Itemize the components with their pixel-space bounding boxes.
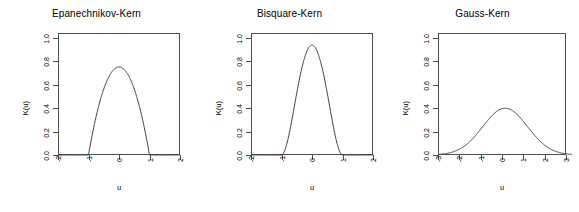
- y-tick-label-wrap: 0.6: [242, 85, 243, 86]
- panel-epanechnikov: Epanechnikov-Kern K(u) u 0.00.20.40.60.8…: [0, 0, 193, 212]
- y-tick-label: 1.0: [236, 34, 243, 44]
- x-tick-label: 2: [370, 158, 377, 162]
- y-axis-title-wrap: K(u): [406, 94, 418, 95]
- y-tick-mark: [246, 85, 251, 86]
- x-tick-label-wrap: -1: [89, 162, 90, 163]
- y-tick-mark: [53, 38, 58, 39]
- x-tick-label-wrap: 2: [545, 162, 546, 163]
- y-axis-title-wrap: K(u): [26, 94, 38, 95]
- y-tick-label-wrap: 0.2: [49, 132, 50, 133]
- y-tick-label: 0.4: [43, 104, 50, 114]
- y-tick-label-wrap: 0.0: [49, 155, 50, 156]
- curve-bisquare: [251, 33, 373, 155]
- y-tick-label-wrap: 0.4: [242, 108, 243, 109]
- y-tick-label: 0.0: [43, 151, 50, 161]
- y-tick-mark: [246, 108, 251, 109]
- y-tick-label: 0.8: [236, 57, 243, 67]
- y-axis-title-wrap: K(u): [219, 94, 231, 95]
- y-tick-label: 0.2: [43, 128, 50, 138]
- x-tick-label: 2: [541, 158, 548, 162]
- x-tick-label: 2: [177, 158, 184, 162]
- x-tick-label-wrap: -2: [459, 162, 460, 163]
- x-tick-label-wrap: 0: [119, 162, 120, 163]
- x-tick-label-wrap: 0: [312, 162, 313, 163]
- y-tick-label-wrap: 0.8: [429, 61, 430, 62]
- x-tick-label: -2: [248, 156, 255, 162]
- x-tick-label-wrap: 1: [523, 162, 524, 163]
- x-tick-label-wrap: 2: [373, 162, 374, 163]
- y-tick-label: 1.0: [43, 34, 50, 44]
- panel-title-bisquare: Bisquare-Kern: [193, 8, 386, 19]
- x-tick-label-wrap: -1: [282, 162, 283, 163]
- x-tick-label: -1: [278, 156, 285, 162]
- y-tick-mark: [246, 61, 251, 62]
- x-tick-label-wrap: -1: [481, 162, 482, 163]
- y-tick-label-wrap: 0.4: [49, 108, 50, 109]
- x-tick-label: -2: [456, 156, 463, 162]
- x-tick-label: 0: [116, 158, 123, 162]
- x-tick-label-wrap: 0: [502, 162, 503, 163]
- plot-area-epanechnikov: K(u) u 0.00.20.40.60.81.0 -2-1012: [58, 33, 180, 155]
- y-tick-label: 0.4: [236, 104, 243, 114]
- x-tick-label: -3: [435, 156, 442, 162]
- y-tick-label: 0.0: [236, 151, 243, 161]
- x-tick-label-wrap: 3: [566, 162, 567, 163]
- x-tick-label: 1: [339, 158, 346, 162]
- x-tick-label-wrap: -3: [438, 162, 439, 163]
- y-tick-label: 0.2: [423, 128, 430, 138]
- y-tick-mark: [53, 108, 58, 109]
- y-tick-label: 0.0: [423, 151, 430, 161]
- y-tick-mark: [433, 85, 438, 86]
- x-tick-label: 1: [520, 158, 527, 162]
- y-tick-label-wrap: 0.6: [429, 85, 430, 86]
- y-tick-label-wrap: 0.2: [429, 132, 430, 133]
- y-tick-label-wrap: 0.8: [49, 61, 50, 62]
- x-axis-title: u: [58, 183, 180, 192]
- y-tick-mark: [433, 108, 438, 109]
- y-tick-mark: [433, 61, 438, 62]
- y-axis-title: K(u): [22, 101, 30, 115]
- curve-epanechnikov: [58, 33, 180, 155]
- plot-area-gauss: K(u) u 0.00.20.40.60.81.0 -3-2-10123: [438, 33, 566, 155]
- x-axis-title: u: [438, 183, 566, 192]
- x-tick-label: 0: [499, 158, 506, 162]
- y-tick-label: 1.0: [423, 34, 430, 44]
- y-tick-mark: [246, 132, 251, 133]
- x-tick-label-wrap: 1: [150, 162, 151, 163]
- y-tick-mark: [53, 132, 58, 133]
- x-tick-label: 1: [146, 158, 153, 162]
- x-tick-label: -1: [477, 156, 484, 162]
- panel-title-epanechnikov: Epanechnikov-Kern: [0, 8, 193, 19]
- x-tick-label-wrap: -2: [251, 162, 252, 163]
- y-axis-title: K(u): [215, 101, 223, 115]
- y-tick-mark: [246, 38, 251, 39]
- y-tick-label-wrap: 0.2: [242, 132, 243, 133]
- x-tick-label-wrap: 2: [180, 162, 181, 163]
- y-tick-label: 0.2: [236, 128, 243, 138]
- y-tick-label-wrap: 1.0: [429, 38, 430, 39]
- y-axis-title: K(u): [402, 101, 410, 115]
- x-tick-label: -2: [55, 156, 62, 162]
- y-tick-mark: [433, 132, 438, 133]
- y-tick-label: 0.8: [423, 57, 430, 67]
- y-tick-label-wrap: 1.0: [49, 38, 50, 39]
- panel-gauss: Gauss-Kern K(u) u 0.00.20.40.60.81.0 -3-…: [386, 0, 579, 212]
- y-tick-label-wrap: 0.4: [429, 108, 430, 109]
- y-tick-label: 0.6: [236, 81, 243, 91]
- x-tick-label: 0: [309, 158, 316, 162]
- y-tick-label: 0.6: [423, 81, 430, 91]
- x-tick-label-wrap: -2: [58, 162, 59, 163]
- y-tick-mark: [53, 85, 58, 86]
- x-axis-title: u: [251, 183, 373, 192]
- y-tick-label-wrap: 0.8: [242, 61, 243, 62]
- x-tick-label-wrap: 1: [343, 162, 344, 163]
- panel-title-gauss: Gauss-Kern: [386, 8, 579, 19]
- x-tick-label: 3: [563, 158, 570, 162]
- panel-bisquare: Bisquare-Kern K(u) u 0.00.20.40.60.81.0 …: [193, 0, 386, 212]
- x-tick-label: -1: [85, 156, 92, 162]
- y-tick-mark: [53, 61, 58, 62]
- y-tick-label: 0.4: [423, 104, 430, 114]
- plot-area-bisquare: K(u) u 0.00.20.40.60.81.0 -2-1012: [251, 33, 373, 155]
- curve-gauss: [438, 33, 566, 155]
- kernel-functions-figure: Epanechnikov-Kern K(u) u 0.00.20.40.60.8…: [0, 0, 579, 212]
